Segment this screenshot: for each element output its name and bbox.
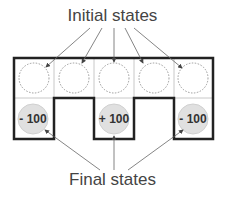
final-state-5-value: - 100 — [176, 112, 210, 126]
initial-state-1 — [19, 63, 49, 93]
final-state-1-value: - 100 — [16, 112, 50, 126]
initial-state-circles — [19, 63, 208, 93]
state-grid-diagram — [0, 0, 225, 198]
initial-state-5 — [178, 63, 208, 93]
grid-lines — [14, 58, 213, 98]
final-states-label: Final states — [0, 170, 225, 190]
final-state-3-value: + 100 — [97, 112, 131, 126]
initial-state-3 — [99, 63, 129, 93]
initial-arrows — [46, 28, 182, 68]
final-arrows — [45, 130, 183, 170]
initial-state-2 — [59, 63, 89, 93]
initial-state-4 — [139, 63, 169, 93]
